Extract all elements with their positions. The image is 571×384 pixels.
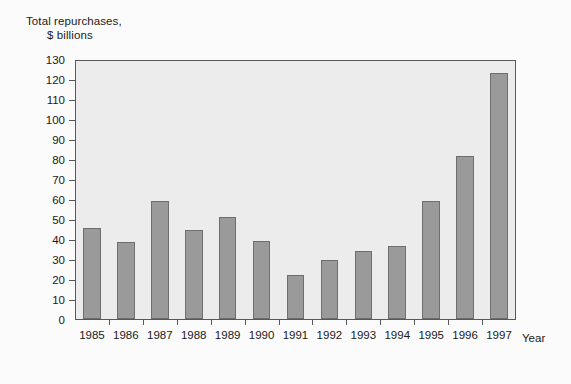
plot-area [75, 60, 516, 320]
x-axis-label-1991: 1991 [279, 328, 313, 343]
x-axis-tick-mark [279, 320, 280, 325]
chart-figure: Total repurchases, $ billions Year 13012… [0, 0, 571, 384]
y-axis-tick-130: 130 [0, 53, 75, 67]
bar-1993 [355, 251, 373, 319]
x-axis-label-1986: 1986 [109, 328, 143, 343]
x-axis-label-1996: 1996 [448, 328, 482, 343]
x-axis-label-1987: 1987 [143, 328, 177, 343]
x-axis-ticks [75, 320, 516, 326]
y-axis-tick-label: 60 [52, 193, 65, 207]
x-axis-tick-mark [177, 320, 178, 325]
y-axis: 1301201101009080706050403020100 [0, 0, 75, 384]
x-axis-label-1990: 1990 [245, 328, 279, 343]
y-axis-tick-label: 10 [52, 293, 65, 307]
x-axis-label-1985: 1985 [75, 328, 109, 343]
x-axis-labels: 1985198619871988198919901991199219931994… [75, 328, 516, 346]
bar-1991 [287, 275, 305, 319]
y-axis-tick-label: 130 [46, 53, 65, 67]
y-axis-tick-120: 120 [0, 73, 75, 87]
x-axis-tick-mark [346, 320, 347, 325]
y-axis-tick-40: 40 [0, 233, 75, 247]
y-axis-tick-label: 50 [52, 213, 65, 227]
y-axis-tick-0: 0 [0, 313, 75, 327]
x-axis-tick-mark [143, 320, 144, 325]
x-axis-tick-mark [109, 320, 110, 325]
x-axis-label-1995: 1995 [414, 328, 448, 343]
bar-1997 [490, 73, 508, 319]
y-axis-tick-10: 10 [0, 293, 75, 307]
y-axis-tick-50: 50 [0, 213, 75, 227]
bar-1995 [422, 201, 440, 319]
bar-1996 [456, 156, 474, 319]
y-axis-tick-label: 90 [52, 133, 65, 147]
y-axis-tick-label: 80 [52, 153, 65, 167]
x-axis-tick-mark [312, 320, 313, 325]
y-axis-tick-100: 100 [0, 113, 75, 127]
x-axis-label-1994: 1994 [380, 328, 414, 343]
y-axis-tick-label: 40 [52, 233, 65, 247]
x-axis-tick-mark [380, 320, 381, 325]
x-axis-label-1988: 1988 [177, 328, 211, 343]
y-axis-tick-30: 30 [0, 253, 75, 267]
y-axis-tick-label: 100 [46, 113, 65, 127]
y-axis-tick-label: 30 [52, 253, 65, 267]
x-axis-label-1992: 1992 [312, 328, 346, 343]
y-axis-tick-label: 120 [46, 73, 65, 87]
bar-1987 [151, 201, 169, 319]
x-axis-tick-mark [448, 320, 449, 325]
x-axis-tick-mark [414, 320, 415, 325]
y-axis-tick-label: 20 [52, 273, 65, 287]
y-axis-tick-90: 90 [0, 133, 75, 147]
bar-1985 [83, 228, 101, 319]
y-axis-tick-60: 60 [0, 193, 75, 207]
x-axis-title: Year [522, 332, 545, 344]
y-axis-tick-70: 70 [0, 173, 75, 187]
x-axis-tick-mark [482, 320, 483, 325]
x-axis-tick-mark [211, 320, 212, 325]
bar-1990 [253, 241, 271, 319]
bar-1988 [185, 230, 203, 319]
x-axis-label-1993: 1993 [346, 328, 380, 343]
y-axis-tick-20: 20 [0, 273, 75, 287]
x-axis-label-1997: 1997 [482, 328, 516, 343]
y-axis-tick-110: 110 [0, 93, 75, 107]
bar-1994 [388, 246, 406, 319]
bar-1992 [321, 260, 339, 319]
bar-1989 [219, 217, 237, 319]
y-axis-tick-label: 70 [52, 173, 65, 187]
y-axis-tick-80: 80 [0, 153, 75, 167]
x-axis-label-1989: 1989 [211, 328, 245, 343]
y-axis-tick-label: 110 [47, 93, 65, 107]
bar-1986 [117, 242, 135, 319]
y-axis-tick-label: 0 [59, 313, 65, 327]
x-axis-tick-mark [245, 320, 246, 325]
